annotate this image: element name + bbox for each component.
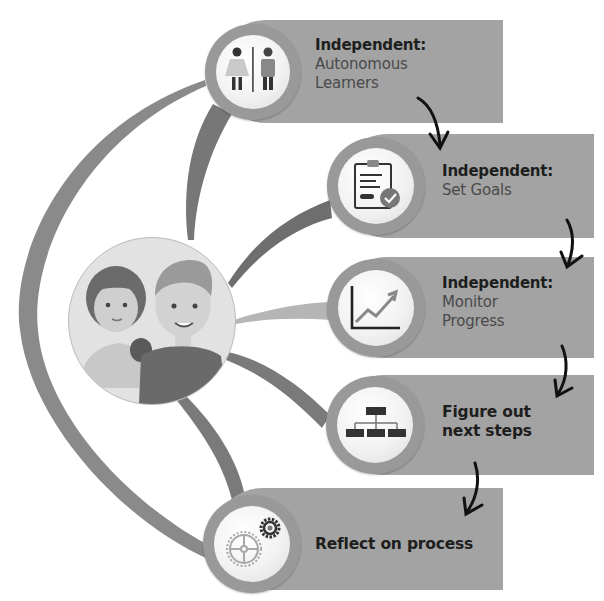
step-3-icon-disc [338,270,414,346]
step-1-subtitle-line-2: Learners [315,74,426,93]
step-2-title: Independent: [442,162,553,181]
step-4-title-line-1: Figure out [442,403,532,422]
step-1-label: Independent: Autonomous Learners [315,36,426,92]
step-1-icon-disc [216,35,290,109]
step-1-title: Independent: [315,36,426,55]
diagram-canvas: Independent: Autonomous Learners Indepen… [0,0,604,601]
girl-and-boy-illustration [69,238,235,404]
restroom-people-icon [216,35,290,109]
step-3-subtitle-line-2: Progress [442,312,553,331]
step-2-label: Independent: Set Goals [442,162,553,200]
step-2-icon-disc [338,148,414,224]
org-chart-icon [337,387,413,463]
step-5-icon-disc [214,506,290,582]
step-2-subtitle-line-1: Set Goals [442,181,553,200]
step-5-title: Reflect on process [315,535,473,554]
clipboard-check-icon [338,148,414,224]
step-4-icon-disc [337,387,413,463]
students-avatar [68,237,236,405]
step-3-title: Independent: [442,274,553,293]
step-4-title-line-2: next steps [442,422,532,441]
step-5-label: Reflect on process [315,535,473,554]
step-1-subtitle-line-1: Autonomous [315,55,426,74]
step-3-label: Independent: Monitor Progress [442,274,553,330]
trending-chart-icon [338,270,414,346]
step-4-label: Figure out next steps [442,403,532,442]
step-3-subtitle-line-1: Monitor [442,293,553,312]
gears-icon [214,506,290,582]
